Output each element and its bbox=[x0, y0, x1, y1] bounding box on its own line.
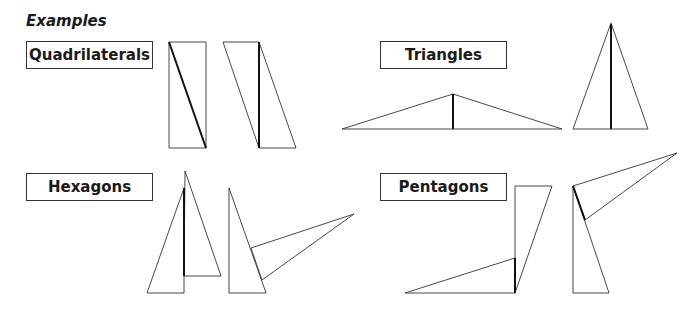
shapes-diagram bbox=[0, 0, 692, 317]
triangle-wide-split bbox=[342, 94, 562, 129]
hexagon-shape-b bbox=[229, 188, 354, 293]
pentagon-shape-b bbox=[573, 153, 677, 293]
hexagon-shape-a bbox=[147, 171, 221, 293]
pentagon-shape-a bbox=[405, 186, 552, 293]
quadrilateral-parallelogram-split bbox=[223, 42, 296, 148]
triangle-tall-split bbox=[573, 23, 648, 129]
quadrilateral-rectangle-split bbox=[169, 42, 206, 148]
